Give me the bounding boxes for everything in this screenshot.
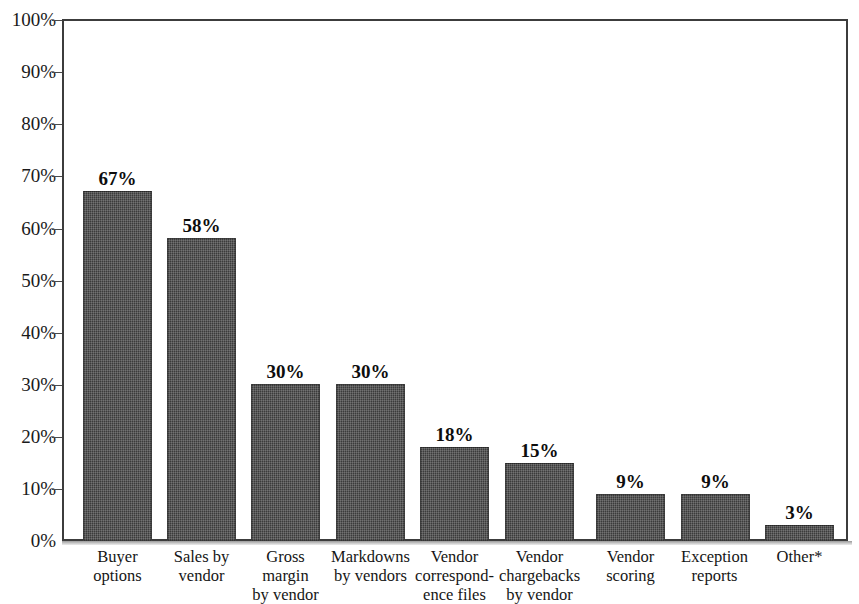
bar-value-label: 30% (322, 362, 419, 381)
bar[interactable] (505, 463, 574, 541)
bar-value-label: 30% (237, 362, 334, 381)
bar-value-label: 9% (667, 472, 764, 491)
x-axis-label-other: Other* (752, 547, 847, 566)
bar[interactable] (420, 447, 489, 541)
bar-group[interactable]: 18% (420, 447, 489, 541)
bar-group[interactable]: 9% (681, 494, 750, 541)
x-axis-labels: Buyer options Sales by vendor Gross marg… (0, 545, 859, 598)
bar-group[interactable]: 30% (251, 384, 320, 541)
x-axis-label-vendor-chargebacks-by-vendor: Vendor chargebacks by vendor (487, 547, 592, 604)
x-axis-label-line: Sales by (154, 547, 249, 566)
bar[interactable] (765, 525, 834, 541)
x-axis-label-line: options (70, 566, 165, 585)
bar-group[interactable]: 9% (596, 494, 665, 541)
bar[interactable] (596, 494, 665, 541)
x-axis-label-line: by vendor (487, 585, 592, 604)
bar-value-label: 3% (751, 503, 848, 522)
bar-value-label: 9% (582, 472, 679, 491)
bar[interactable] (681, 494, 750, 541)
bar-group[interactable]: 67% (83, 191, 152, 541)
bar-group[interactable]: 15% (505, 463, 574, 541)
bar[interactable] (336, 384, 405, 541)
bar[interactable] (251, 384, 320, 541)
bar-value-label: 18% (406, 425, 503, 444)
bar-group[interactable]: 3% (765, 525, 834, 541)
x-axis-label-exception-reports: Exception reports (663, 547, 766, 585)
bar[interactable] (167, 238, 236, 541)
bar-value-label: 67% (69, 169, 166, 188)
x-axis-label-line: by vendor (238, 585, 333, 604)
x-axis-label-buyer-options: Buyer options (70, 547, 165, 585)
x-axis-label-sales-by-vendor: Sales by vendor (154, 547, 249, 585)
x-axis-label-line: Buyer (70, 547, 165, 566)
x-axis-label-line: chargebacks (487, 566, 592, 585)
bar-value-label: 58% (153, 216, 250, 235)
bar[interactable] (83, 191, 152, 541)
x-axis-label-line: Exception (663, 547, 766, 566)
x-axis-label-line: Other* (752, 547, 847, 566)
x-axis-label-line: reports (663, 566, 766, 585)
bar-value-label: 15% (491, 441, 588, 460)
bar-group[interactable]: 30% (336, 384, 405, 541)
bar-group[interactable]: 58% (167, 238, 236, 541)
x-axis-label-line: vendor (154, 566, 249, 585)
x-axis-label-line: Vendor (487, 547, 592, 566)
